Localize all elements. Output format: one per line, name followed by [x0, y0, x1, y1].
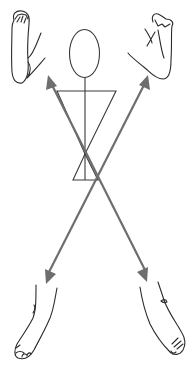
foot-dorsal-bottom-left	[15, 285, 57, 359]
arrow-up-right	[48, 85, 144, 274]
foot-sole-top-left	[12, 11, 45, 83]
head	[70, 30, 100, 78]
torso-triangle	[57, 91, 116, 154]
foot-sole-top-right	[128, 14, 173, 79]
diagram-canvas	[0, 0, 196, 371]
arrowhead-up-right	[139, 75, 150, 90]
arrowhead-up-left	[46, 75, 57, 90]
diagram-svg	[0, 0, 196, 371]
foot-dorsal-bottom-right	[140, 282, 185, 354]
arrow-up-left	[52, 85, 146, 272]
arrowhead-down-right	[137, 267, 148, 282]
